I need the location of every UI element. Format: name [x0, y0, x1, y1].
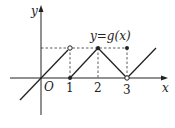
tick-label-3: 3 — [123, 83, 131, 97]
open-point-3-0 — [125, 76, 129, 80]
filled-point-1-0 — [68, 76, 72, 80]
graph-curve — [20, 48, 156, 100]
function-label: y=g(x) — [89, 29, 131, 43]
x-axis-arrow-icon — [161, 76, 168, 81]
tick-label-1: 1 — [66, 81, 74, 95]
y-axis-arrow-icon — [39, 5, 44, 12]
x-axis-label: x — [162, 81, 169, 95]
origin-label: O — [44, 80, 54, 94]
filled-point-3-1 — [125, 46, 129, 50]
y-axis-label: y — [30, 4, 38, 18]
open-point-1-1 — [68, 46, 72, 50]
function-graph: y x O 1 2 3 y=g(x) — [0, 0, 175, 128]
filled-point-2-1 — [96, 46, 100, 50]
tick-label-2: 2 — [94, 81, 102, 95]
